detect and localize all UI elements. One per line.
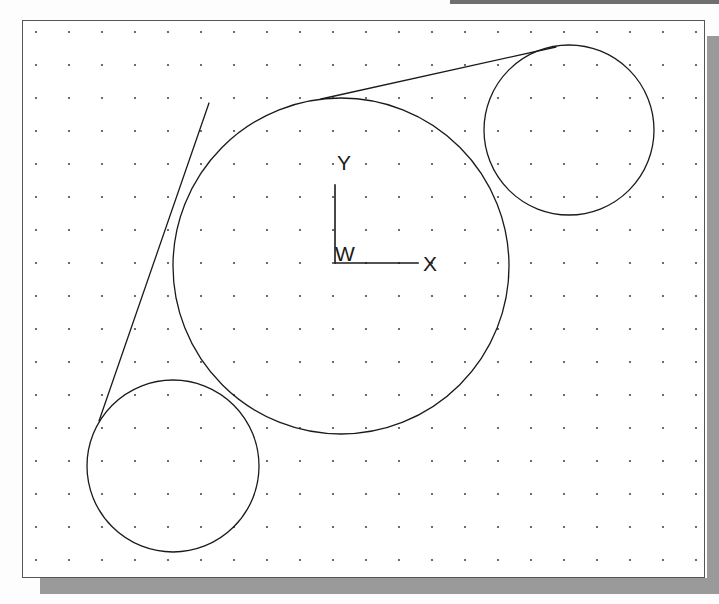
lower-tangent-line[interactable] [99,103,209,421]
upper-tangent-line[interactable] [321,47,556,99]
frame-shadow-right [707,36,719,594]
y-axis-label: Y [337,152,351,173]
cad-drawing-frame[interactable]: Y X W [22,20,705,578]
large-circle[interactable] [173,98,509,434]
scanned-page: Y X W [0,0,719,604]
wcs-origin-label: W [335,243,355,264]
frame-shadow-bottom [40,578,719,594]
x-axis-label: X [423,253,437,274]
top-right-circle[interactable] [484,45,654,215]
bottom-left-circle[interactable] [87,380,259,552]
page-top-band [450,0,719,4]
drawing-geometry[interactable] [23,21,705,578]
